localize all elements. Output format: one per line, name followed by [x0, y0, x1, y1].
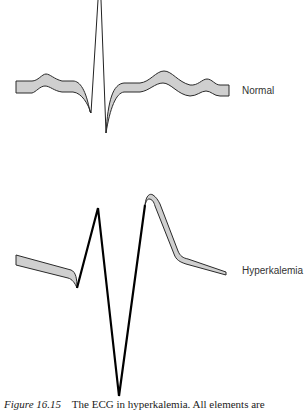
caption-text: The ECG in hyperkalemia. All elements ar…	[72, 398, 265, 410]
hyperkalemia-pr-band	[16, 255, 77, 288]
normal-label: Normal	[242, 85, 274, 96]
normal-pr-segment-band	[16, 74, 91, 113]
ecg-diagram	[0, 0, 304, 410]
figure-number: Figure 16.15	[4, 398, 61, 410]
hyperkalemia-peaked-t-band	[145, 194, 226, 275]
hyperkalemia-ecg-trace	[16, 194, 226, 396]
normal-qrs-spike	[91, 0, 106, 133]
hyperkalemia-label: Hyperkalemia	[242, 265, 303, 276]
caption-separator	[64, 398, 70, 410]
normal-st-t-band	[106, 71, 229, 133]
hyperkalemia-qrs-complex	[77, 205, 145, 396]
normal-ecg-trace	[16, 0, 229, 133]
figure-caption: Figure 16.15 The ECG in hyperkalemia. Al…	[4, 398, 304, 410]
